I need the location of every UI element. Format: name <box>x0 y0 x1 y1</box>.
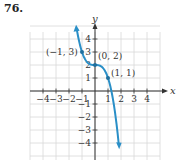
cubic-function-graph: xy −4−3−2−11234−4−3−2−11234 (−1, 3)(0, 2… <box>0 0 177 164</box>
svg-text:y: y <box>91 13 98 24</box>
svg-text:3: 3 <box>85 47 91 57</box>
svg-text:4: 4 <box>85 34 91 44</box>
svg-text:(0, 2): (0, 2) <box>98 51 122 61</box>
svg-text:−4: −4 <box>78 138 92 148</box>
svg-text:−1: −1 <box>78 99 91 109</box>
svg-text:−4: −4 <box>36 94 50 104</box>
svg-text:−3: −3 <box>78 125 92 135</box>
svg-text:−3: −3 <box>49 94 63 104</box>
svg-text:x: x <box>170 85 176 96</box>
svg-text:1: 1 <box>105 94 111 104</box>
svg-text:(1, 1): (1, 1) <box>111 68 135 78</box>
svg-text:−2: −2 <box>78 112 91 122</box>
svg-text:(−1, 3): (−1, 3) <box>46 47 78 57</box>
svg-text:2: 2 <box>118 94 124 104</box>
svg-text:−2: −2 <box>62 94 75 104</box>
svg-text:1: 1 <box>85 73 91 83</box>
svg-text:3: 3 <box>131 94 137 104</box>
axes: xy <box>30 13 176 160</box>
svg-text:4: 4 <box>144 94 150 104</box>
